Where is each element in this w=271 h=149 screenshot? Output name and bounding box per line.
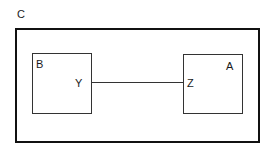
outer-label-c: C (17, 9, 25, 20)
box-b-label: B (36, 59, 43, 70)
box-a-label: A (226, 61, 233, 72)
port-y-label: Y (75, 78, 82, 89)
port-z-label: Z (187, 78, 194, 89)
connector-y-z (91, 82, 183, 83)
